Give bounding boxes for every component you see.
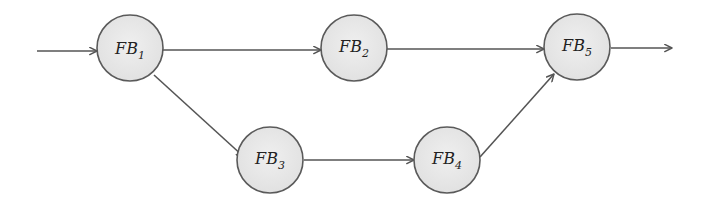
edge-fb4-fb5 [480, 74, 554, 157]
node-fb4: FB4 [414, 127, 480, 193]
node-fb5: FB5 [544, 14, 610, 80]
flow-diagram: FB1 FB2 FB3 FB4 FB5 [0, 0, 709, 210]
node-fb1: FB1 [97, 15, 163, 81]
node-fb2: FB2 [321, 15, 387, 81]
node-fb3: FB3 [237, 127, 303, 193]
edge-fb1-fb3 [154, 75, 244, 157]
